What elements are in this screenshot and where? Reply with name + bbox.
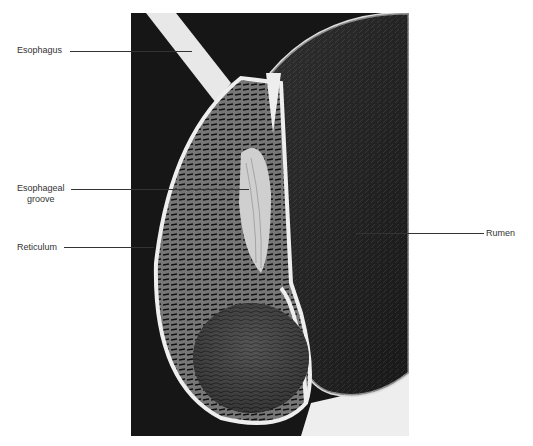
label-esophageal-groove-line2: groove (17, 194, 65, 205)
leader-reticulum (64, 247, 154, 248)
leader-esophageal-groove (71, 189, 249, 190)
leader-esophagus (70, 51, 192, 52)
label-esophageal-groove: Esophageal groove (17, 183, 65, 205)
label-reticulum: Reticulum (17, 242, 57, 253)
label-rumen: Rumen (486, 228, 515, 239)
label-esophagus: Esophagus (17, 45, 62, 56)
stomach-photograph (131, 13, 409, 436)
leader-rumen (356, 233, 484, 234)
label-esophageal-groove-line1: Esophageal (17, 183, 65, 194)
